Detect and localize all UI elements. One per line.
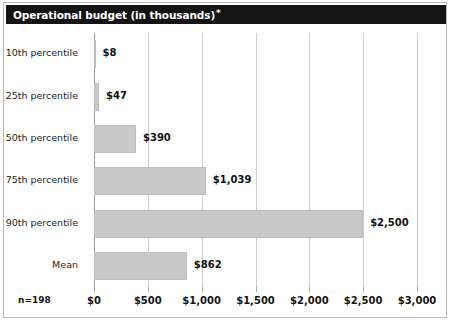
chart-title-text: Operational budget (in thousands) [13, 9, 215, 21]
bar-value-label: $47 [106, 90, 127, 101]
bar-value-label: $8 [103, 47, 117, 58]
gridline-3000 [417, 33, 418, 287]
axis-tick [202, 287, 203, 292]
chart-figure: Operational budget (in thousands)* $8$47… [3, 2, 447, 318]
axis-tick [256, 287, 257, 292]
xtick-label: $2,500 [344, 295, 383, 306]
gridline-500 [148, 33, 149, 287]
axis-tick [94, 287, 95, 292]
xtick-label: $1,000 [182, 295, 221, 306]
sample-size-label: n=198 [18, 295, 51, 305]
gridline-1500 [256, 33, 257, 287]
category-label: 10th percentile [3, 47, 78, 58]
axis-tick [417, 287, 418, 292]
bar-value-label: $2,500 [370, 217, 409, 228]
gridline-2500 [363, 33, 364, 287]
plot-area: $8$47$390$1,039$2,500$862 [94, 33, 417, 287]
bar [94, 210, 363, 238]
xtick-label: $0 [87, 295, 101, 306]
axis-tick [363, 287, 364, 292]
bar [94, 125, 136, 153]
xtick-label: $500 [134, 295, 162, 306]
category-label: 25th percentile [3, 90, 78, 101]
xtick-label: $1,500 [236, 295, 275, 306]
gridline-2000 [309, 33, 310, 287]
category-label: 50th percentile [3, 132, 78, 143]
gridline-1000 [202, 33, 203, 287]
chart-title-bar: Operational budget (in thousands)* [6, 5, 446, 24]
axis-tick [148, 287, 149, 292]
xtick-label: $3,000 [398, 295, 437, 306]
xtick-label: $2,000 [290, 295, 329, 306]
bar-value-label: $1,039 [213, 174, 252, 185]
bar-value-label: $862 [194, 259, 222, 270]
category-label: 75th percentile [3, 174, 78, 185]
bar [94, 40, 96, 68]
title-footnote-asterisk: * [216, 8, 221, 18]
bar [94, 167, 206, 195]
category-label: Mean [3, 259, 78, 270]
axis-tick [309, 287, 310, 292]
category-label: 90th percentile [3, 217, 78, 228]
bar [94, 252, 187, 280]
gridline-0 [94, 33, 95, 287]
bar-value-label: $390 [143, 132, 171, 143]
bar [94, 83, 99, 111]
page-title: Operational budget (in thousands)* [13, 8, 221, 21]
